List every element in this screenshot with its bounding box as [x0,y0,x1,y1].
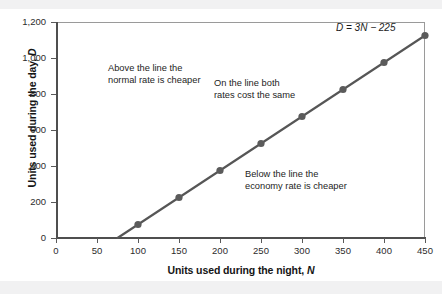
x-tick-label: 150 [159,245,199,256]
series-layer [56,22,425,238]
x-tick-mark [179,238,180,243]
data-point-marker [257,140,264,147]
y-tick-label: 200 [0,196,46,207]
data-point-marker [134,221,141,228]
data-point-marker [380,59,387,66]
x-tick-mark [302,238,303,243]
data-point-marker [421,32,428,39]
data-point-marker [298,113,305,120]
data-point-marker [339,86,346,93]
y-tick-label: 1,000 [0,52,46,63]
x-axis-title-text: Units used during the night, [168,264,305,276]
annotation-below-the-line: Below the line the economy rate is cheap… [245,168,371,193]
x-tick-label: 350 [323,245,363,256]
y-tick-label: 800 [0,88,46,99]
x-tick-mark [56,238,57,243]
x-tick-mark [343,238,344,243]
x-tick-label: 400 [364,245,404,256]
x-tick-label: 450 [405,245,442,256]
x-tick-label: 300 [282,245,322,256]
annotation-above-the-line: Above the line the normal rate is cheape… [108,62,228,87]
scan-band-bottom [0,281,442,294]
x-tick-label: 0 [36,245,76,256]
y-tick-label: 400 [0,160,46,171]
chart-figure: Units used during the day, D Units used … [0,0,442,294]
x-tick-label: 50 [77,245,117,256]
data-point-marker [175,194,182,201]
data-point-marker [216,167,223,174]
x-tick-mark [220,238,221,243]
x-tick-mark [425,238,426,243]
x-tick-label: 250 [241,245,281,256]
x-tick-mark [138,238,139,243]
x-tick-label: 100 [118,245,158,256]
x-tick-label: 200 [200,245,240,256]
annotation-on-the-line: On the line both rates cost the same [214,77,330,102]
x-axis-title: Units used during the night, N [56,264,426,276]
x-tick-mark [261,238,262,243]
y-tick-label: 1,200 [0,16,46,27]
equation-annotation: D = 3N − 225 [336,22,395,33]
x-tick-mark [97,238,98,243]
scan-band-top [0,0,442,9]
y-tick-label: 600 [0,124,46,135]
x-tick-mark [384,238,385,243]
x-axis-title-variable: N [307,264,314,276]
y-tick-label: 0 [0,232,46,243]
